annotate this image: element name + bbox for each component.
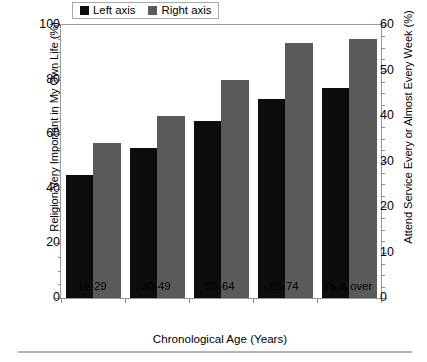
y-left-minor-tick	[58, 271, 62, 272]
y-right-tick-label: 50	[380, 63, 394, 77]
x-axis-tick-label: 50-64	[205, 280, 234, 292]
y-right-tick-label: 0	[380, 290, 387, 304]
bar-right-50-64	[221, 80, 249, 298]
y-right-tick-label: 60	[380, 17, 394, 31]
y-right-minor-tick	[381, 218, 385, 219]
y-right-minor-tick	[381, 184, 385, 185]
x-axis-tick-label: 18-29	[77, 280, 106, 292]
bar-left-50-64	[194, 121, 222, 298]
y-right-minor-tick	[381, 59, 385, 60]
y-left-tick-label: 80	[46, 72, 60, 86]
bar-left-30-49	[130, 148, 158, 298]
legend-item: Left axis	[80, 4, 135, 16]
legend-item: Right axis	[148, 4, 211, 16]
y-left-minor-tick	[58, 148, 62, 149]
y-right-minor-tick	[381, 230, 385, 231]
y-right-minor-tick	[381, 173, 385, 174]
bar-left-75-over	[322, 88, 350, 298]
y-left-minor-tick	[58, 257, 62, 258]
y-left-minor-tick	[58, 284, 62, 285]
legend-label: Left axis	[93, 4, 135, 16]
y-right-minor-tick	[381, 264, 385, 265]
y-left-minor-tick	[58, 52, 62, 53]
y-right-minor-tick	[381, 241, 385, 242]
bar-right-75-over	[349, 39, 377, 298]
x-axis-tick	[317, 298, 318, 303]
legend-label: Right axis	[161, 4, 211, 16]
chart-figure: Religion Very Important in My Own Life (…	[0, 0, 427, 362]
y-right-minor-tick	[381, 150, 385, 151]
y-left-minor-tick	[58, 175, 62, 176]
legend-swatch-icon	[148, 6, 157, 15]
x-axis-tick-label: 75 & over	[324, 280, 373, 292]
y-right-minor-tick	[381, 36, 385, 37]
bar-right-18-29	[93, 143, 121, 298]
x-axis-tick	[189, 298, 190, 303]
y-left-minor-tick	[58, 230, 62, 231]
y-right-minor-tick	[381, 275, 385, 276]
y-left-tick-label: 40	[46, 181, 60, 195]
y-left-minor-tick	[58, 162, 62, 163]
y-left-minor-tick	[58, 216, 62, 217]
y-left-minor-tick	[58, 66, 62, 67]
bar-left-65-74	[258, 99, 286, 298]
y-left-minor-tick	[58, 202, 62, 203]
x-axis-tick	[61, 298, 62, 303]
y-right-minor-tick	[381, 82, 385, 83]
y-left-tick-label: 100	[39, 17, 60, 31]
chart-legend: Left axisRight axis	[72, 2, 219, 19]
y-left-tick-label: 0	[53, 290, 60, 304]
y-left-minor-tick	[58, 93, 62, 94]
y-right-tick-label: 20	[380, 199, 394, 213]
y-axis-right-title: Attend Service Every or Almost Every Wee…	[402, 0, 414, 267]
x-axis-tick-label: 65-74	[269, 280, 298, 292]
y-right-minor-tick	[381, 127, 385, 128]
plot-area	[60, 24, 382, 299]
y-right-minor-tick	[381, 287, 385, 288]
bar-right-65-74	[285, 43, 313, 298]
legend-swatch-icon	[80, 6, 89, 15]
x-axis-title: Chronological Age (Years)	[60, 332, 380, 345]
y-left-minor-tick	[58, 121, 62, 122]
y-right-minor-tick	[381, 93, 385, 94]
y-right-minor-tick	[381, 139, 385, 140]
y-right-tick-label: 40	[380, 108, 394, 122]
x-axis-tick	[253, 298, 254, 303]
x-axis-tick-label: 30-49	[141, 280, 170, 292]
bar-right-30-49	[157, 116, 185, 298]
y-right-minor-tick	[381, 48, 385, 49]
y-left-minor-tick	[58, 39, 62, 40]
y-left-tick-label: 60	[46, 126, 60, 140]
y-left-tick-label: 20	[46, 235, 60, 249]
y-left-minor-tick	[58, 107, 62, 108]
y-right-tick-label: 10	[380, 245, 394, 259]
y-right-tick-label: 30	[380, 154, 394, 168]
y-right-minor-tick	[381, 196, 385, 197]
bottom-divider	[18, 351, 412, 353]
y-right-minor-tick	[381, 105, 385, 106]
x-axis-tick	[125, 298, 126, 303]
